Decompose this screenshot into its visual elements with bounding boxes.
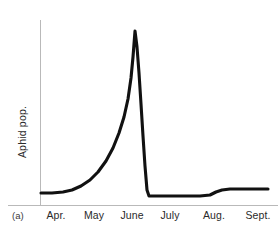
aphid-population-chart: Aphid pop. (a) Apr. May June July Aug. S… <box>0 0 280 232</box>
y-axis-label: Aphid pop. <box>16 106 28 158</box>
x-tick-label-july: July <box>160 209 180 221</box>
x-tick-label-sept: Sept. <box>245 209 270 221</box>
figure-panel: Aphid pop. (a) Apr. May June July Aug. S… <box>0 0 280 232</box>
panel-label: (a) <box>12 210 24 221</box>
aphid-population-curve <box>41 31 268 196</box>
x-tick-label-apr: Apr. <box>46 209 65 221</box>
x-tick-label-may: May <box>84 209 105 221</box>
x-tick-label-aug: Aug. <box>203 209 225 221</box>
x-tick-label-june: June <box>120 209 143 221</box>
